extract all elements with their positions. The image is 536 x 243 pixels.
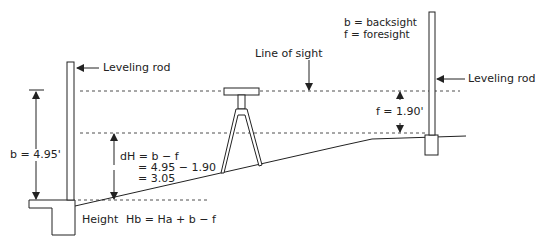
height-formula: Hb = Ha + b − f [126,214,216,226]
right-rod-base [425,135,438,155]
level-instrument [221,88,262,173]
left-rod-label: Leveling rod [103,62,171,74]
left-leveling-rod [67,62,74,200]
height-label: Height [82,214,118,226]
left-benchmark-base [29,200,75,235]
legend-backsight: b = backsight [344,16,417,28]
foresight-value: f = 1.90' [376,106,424,118]
ground-profile [75,136,466,206]
line-of-sight-label: Line of sight [255,48,323,60]
dh-formula-line3: = 3.05 [138,173,175,185]
right-rod-label: Leveling rod [468,73,536,85]
backsight-value: b = 4.95' [10,149,61,161]
right-leveling-rod [429,12,435,135]
backsight-dimension [29,90,44,199]
legend-foresight: f = foresight [344,28,410,40]
